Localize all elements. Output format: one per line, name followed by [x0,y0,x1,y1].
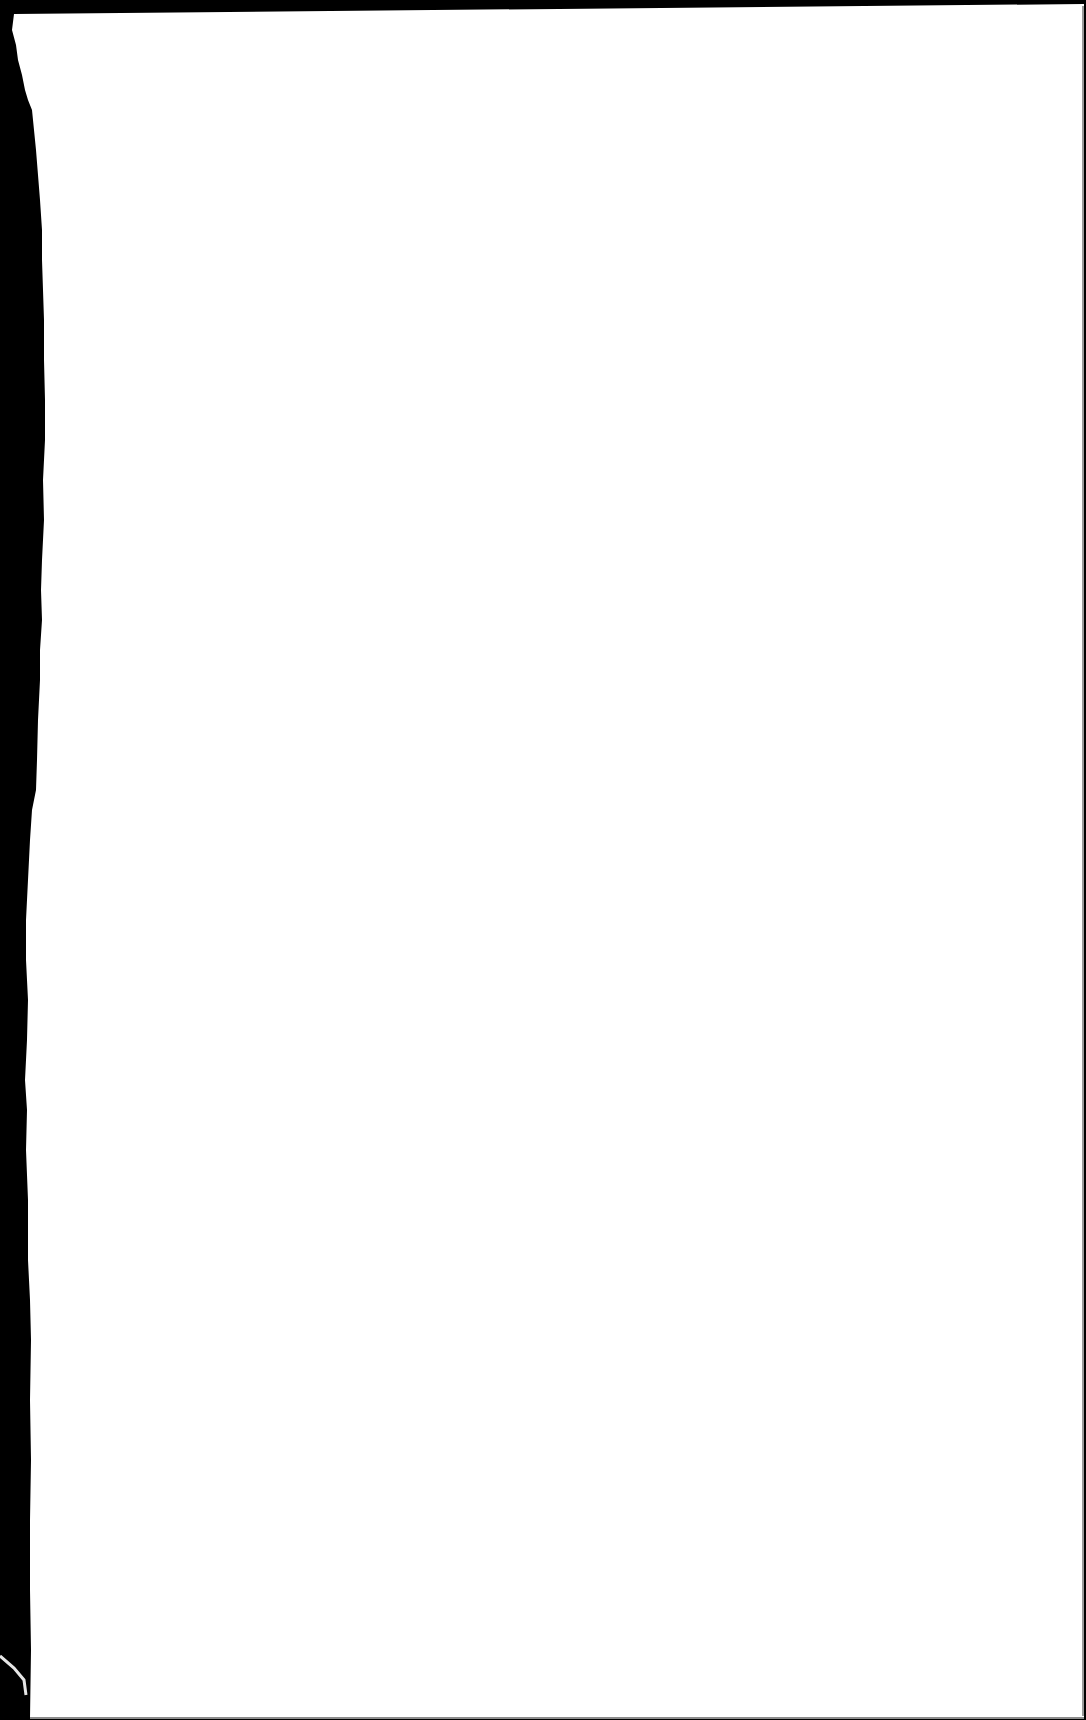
blank-paper-sheet [0,0,1086,1720]
paper-sheet [12,4,1084,1718]
paper-fiber-mark [0,1656,26,1695]
scanned-page-backdrop [0,0,1086,1720]
